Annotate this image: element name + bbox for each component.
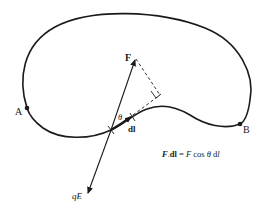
field-force-vector-arrow <box>88 130 111 193</box>
point-b-marker <box>238 122 243 127</box>
closed-path-curve <box>23 14 251 138</box>
point-a-marker <box>25 106 30 111</box>
formula-text: F.dl = F cos θ dl <box>161 149 220 159</box>
formula-l: l <box>217 149 220 159</box>
displacement-vector-label: dl <box>128 124 136 134</box>
angle-theta-label: θ <box>118 112 122 122</box>
projection-dashed-line-from-tip <box>136 59 160 95</box>
point-b-label: B <box>243 124 250 135</box>
line-integral-diagram: A B F qE dl θ F.dl = F cos θ dl <box>0 0 266 213</box>
right-angle-marker <box>151 91 161 98</box>
formula-equals: = <box>177 149 186 159</box>
force-vector-label: F <box>125 52 131 63</box>
formula-cos: cos <box>191 149 207 159</box>
point-a-label: A <box>15 106 23 117</box>
field-force-vector-label: qE <box>72 191 83 201</box>
force-vector-arrow <box>111 60 135 130</box>
